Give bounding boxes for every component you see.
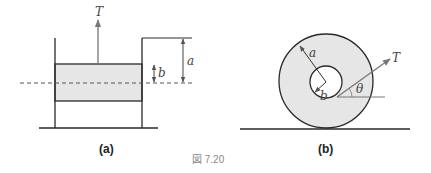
tension-label-b: T <box>392 51 401 65</box>
radius-b-label: b <box>320 89 328 103</box>
panel-b-label: (b) <box>318 142 333 156</box>
dim-label-b: b <box>158 66 166 80</box>
panel-a: T a b (a) <box>20 5 194 156</box>
figure-7-20: T a b (a) a b θ T (b) 図 7.20 <box>0 0 431 173</box>
dim-label-a: a <box>187 54 194 68</box>
tension-label-a: T <box>95 5 104 19</box>
angle-theta-label: θ <box>356 82 364 96</box>
figure-caption: 図 7.20 <box>192 154 225 165</box>
panel-a-label: (a) <box>99 142 114 156</box>
panel-b: a b θ T (b) <box>240 34 410 156</box>
radius-a-label: a <box>309 46 316 60</box>
